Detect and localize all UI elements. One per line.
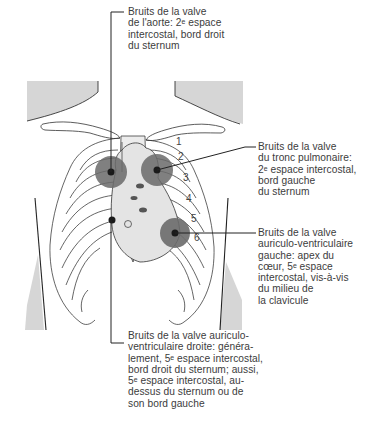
- pulmonary-valve-label: Bruits de la valve du tronc pulmonaire: …: [258, 141, 379, 197]
- tricuspid-point: [109, 217, 116, 224]
- shoulder-shading: [27, 81, 243, 124]
- svg-text:1: 1: [176, 136, 182, 147]
- svg-text:5: 5: [191, 213, 197, 224]
- svg-text:3: 3: [183, 172, 189, 183]
- svg-text:2: 2: [178, 151, 184, 162]
- aortic-valve-label: Bruits de la valve de l'aorte: 2ᵉ espace…: [128, 6, 278, 51]
- svg-text:4: 4: [186, 193, 192, 204]
- mitral-valve-label: Bruits de la valve auriculo-ventriculair…: [258, 227, 379, 306]
- svg-text:6: 6: [194, 232, 200, 243]
- tricuspid-valve-label: Bruits de la valve auriculo- ventriculai…: [128, 330, 308, 409]
